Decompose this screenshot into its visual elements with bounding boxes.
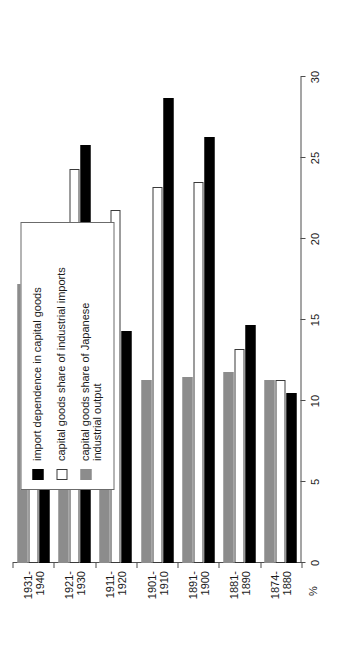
rotated-figure-wrapper: 051015202530 1874- 18801881- 18901891- 1…	[0, 0, 357, 658]
value-axis-line	[300, 77, 301, 563]
legend-label-import-dependence: import dependence in capital goods	[30, 287, 42, 461]
bar	[193, 182, 203, 563]
category-label: 1891- 1900	[186, 571, 210, 641]
legend-swatch-import-dependence	[32, 469, 43, 480]
value-tick	[300, 319, 305, 320]
category-label: 1881- 1890	[227, 571, 251, 641]
value-tick-label: 30	[308, 71, 320, 83]
value-tick-label: 0	[308, 560, 320, 566]
bar	[182, 377, 192, 563]
legend-label-capital-goods-share-output: capital goods share of Japanese industri…	[78, 303, 102, 461]
category-label: 1931- 1940	[21, 571, 45, 641]
category-label: 1901- 1910	[145, 571, 169, 641]
bar	[204, 137, 214, 563]
bar	[275, 380, 285, 563]
category-tick	[53, 563, 54, 568]
value-tick	[300, 238, 305, 239]
category-tick	[218, 563, 219, 568]
legend-label-capital-goods-share-imports: capital goods share of industrial import…	[54, 267, 66, 461]
category-label: 1874- 1880	[268, 571, 292, 641]
bar	[163, 98, 173, 563]
category-label: 1921- 1930	[62, 571, 86, 641]
bar-chart-figure: 051015202530 1874- 18801881- 18901891- 1…	[0, 0, 357, 658]
value-tick-label: 15	[308, 314, 320, 326]
category-label: 1911- 1920	[103, 571, 127, 641]
legend-item: capital goods share of industrial import…	[54, 231, 78, 480]
category-tick	[301, 563, 302, 568]
chart-canvas: 051015202530 1874- 18801881- 18901891- 1…	[0, 0, 357, 658]
bar	[141, 380, 151, 563]
bar	[234, 349, 244, 563]
value-tick-label: 20	[308, 233, 320, 245]
chart-legend: import dependence in capital goods capit…	[20, 222, 114, 490]
bar	[223, 372, 233, 563]
category-tick	[177, 563, 178, 568]
value-tick-label: 5	[308, 479, 320, 485]
legend-item: capital goods share of Japanese industri…	[78, 231, 102, 480]
category-tick	[95, 563, 96, 568]
legend-swatch-capital-goods-share-imports	[56, 469, 67, 480]
axis-unit-label: %	[306, 586, 318, 596]
category-tick	[136, 563, 137, 568]
bar	[245, 325, 255, 563]
category-tick	[260, 563, 261, 568]
legend-swatch-capital-goods-share-output	[80, 469, 91, 480]
bar	[264, 380, 274, 563]
value-tick	[300, 481, 305, 482]
legend-item: import dependence in capital goods	[30, 231, 54, 480]
bar	[286, 393, 296, 563]
category-tick	[12, 563, 13, 568]
value-tick	[300, 157, 305, 158]
bar	[121, 331, 131, 563]
bar	[152, 187, 162, 563]
value-tick-label: 25	[308, 152, 320, 164]
value-tick-label: 10	[308, 395, 320, 407]
value-tick	[300, 400, 305, 401]
value-tick	[300, 76, 305, 77]
